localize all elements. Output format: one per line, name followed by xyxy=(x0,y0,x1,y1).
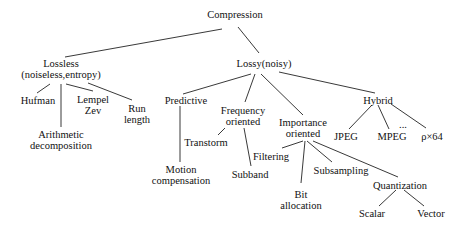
node-label: Vector xyxy=(417,208,444,219)
node-label: Arithmetic xyxy=(30,129,92,140)
node-label: Lossy(noisy) xyxy=(237,58,292,69)
node-label: Frequency xyxy=(221,105,265,116)
node-label: Predictive xyxy=(165,95,208,106)
node-filtering: Filtering xyxy=(253,151,289,162)
node-sublabel: oriented xyxy=(221,116,265,127)
node-label: MPEG xyxy=(377,131,406,142)
node-hufman: Hufman xyxy=(21,95,55,106)
node-label: Bit xyxy=(280,189,321,200)
node-px64: ρ×64 xyxy=(421,131,443,142)
node-label: Subsampling xyxy=(314,165,369,176)
node-ellipsis: ... xyxy=(399,119,407,130)
node-arithmetic: Arithmetic decomposition xyxy=(30,129,92,151)
node-sublabel: Zev xyxy=(77,105,109,116)
node-label: ... xyxy=(399,119,407,130)
node-lempel-zev: Lempel Zev xyxy=(77,94,109,116)
node-mpeg: MPEG xyxy=(377,131,406,142)
compression-taxonomy-diagram: Compression Lossless (noiseless,entropy)… xyxy=(0,0,465,229)
node-label: Importance xyxy=(279,117,327,128)
node-importance-oriented: Importance oriented xyxy=(279,117,327,139)
node-motion-compensation: Motion compensation xyxy=(152,164,210,186)
node-label: Subband xyxy=(232,169,269,180)
node-label: Filtering xyxy=(253,151,289,162)
node-label: Quantization xyxy=(373,180,427,191)
node-label: Scalar xyxy=(359,208,385,219)
node-sublabel: compensation xyxy=(152,175,210,186)
node-label: Run xyxy=(124,103,150,114)
node-frequency-oriented: Frequency oriented xyxy=(221,105,265,127)
node-sublabel: (noiseless,entropy) xyxy=(21,69,101,80)
node-sublabel: allocation xyxy=(280,200,321,211)
node-lossy: Lossy(noisy) xyxy=(237,58,292,69)
node-label: Lossless xyxy=(21,58,101,69)
node-label: Motion xyxy=(152,164,210,175)
node-label: ρ×64 xyxy=(421,131,443,142)
node-compression: Compression xyxy=(207,9,262,20)
node-scalar: Scalar xyxy=(359,208,385,219)
node-transform: Transtorm xyxy=(184,137,227,148)
node-jpeg: JPEG xyxy=(334,131,358,142)
node-label: Lempel xyxy=(77,94,109,105)
node-label: Hufman xyxy=(21,95,55,106)
node-label: JPEG xyxy=(334,131,358,142)
node-subsampling: Subsampling xyxy=(314,165,369,176)
node-subband: Subband xyxy=(232,169,269,180)
node-sublabel: decomposition xyxy=(30,140,92,151)
node-hybrid: Hybrid xyxy=(363,95,393,106)
node-sublabel: length xyxy=(124,114,150,125)
node-run-length: Run length xyxy=(124,103,150,125)
node-bit-allocation: Bit allocation xyxy=(280,189,321,211)
node-label: Transtorm xyxy=(184,137,227,148)
node-quantization: Quantization xyxy=(373,180,427,191)
node-vector: Vector xyxy=(417,208,444,219)
node-label: Compression xyxy=(207,9,262,20)
node-label: Hybrid xyxy=(363,95,393,106)
node-sublabel: oriented xyxy=(279,128,327,139)
node-lossless: Lossless (noiseless,entropy) xyxy=(21,58,101,80)
node-predictive: Predictive xyxy=(165,95,208,106)
